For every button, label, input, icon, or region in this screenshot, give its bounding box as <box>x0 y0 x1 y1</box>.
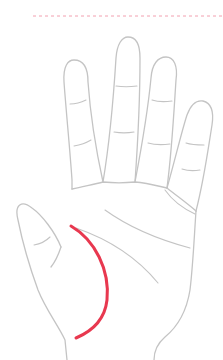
head-line <box>76 228 158 283</box>
thumb-outline <box>17 204 67 360</box>
palm-pinky-junction <box>167 188 196 211</box>
life-line-highlight <box>71 226 107 338</box>
middle-finger-outline <box>103 37 140 182</box>
palm-right-edge <box>154 211 196 360</box>
palm-diagram <box>0 0 223 360</box>
hand-illustration <box>0 0 223 360</box>
pinky-base-line <box>165 190 195 214</box>
palm-lines <box>76 190 195 283</box>
palm-top-edge <box>72 182 167 189</box>
ring-finger-outline <box>135 57 177 188</box>
heart-line <box>105 210 190 248</box>
index-finger-outline <box>64 60 103 189</box>
thumb-inner-outline <box>51 247 61 267</box>
hand-outline <box>17 37 213 360</box>
finger-creases <box>34 86 204 245</box>
